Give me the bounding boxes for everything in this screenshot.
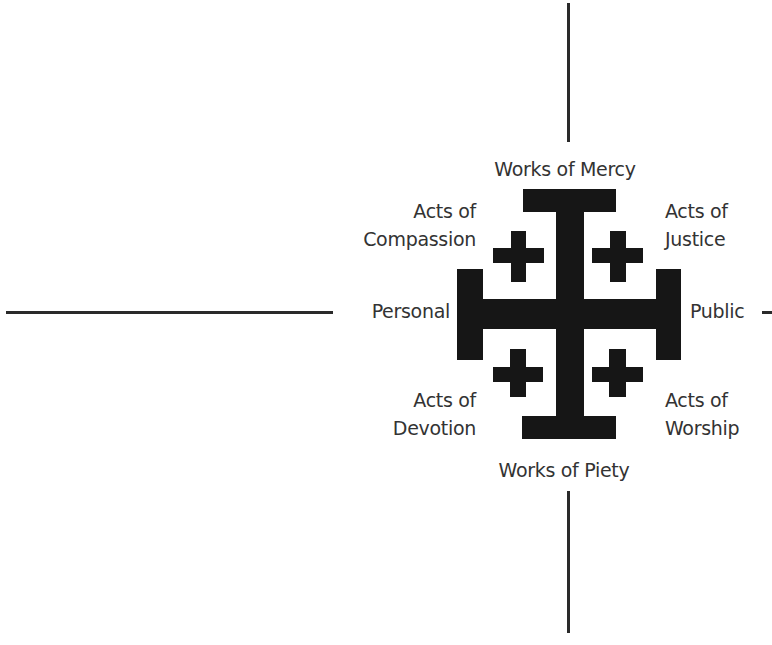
label-line: Justice — [665, 225, 765, 253]
axis-line-bottom — [567, 491, 570, 633]
label-acts-of-compassion: Acts of Compassion — [330, 197, 476, 253]
label-public: Public — [690, 297, 770, 325]
label-acts-of-devotion: Acts of Devotion — [330, 386, 476, 442]
label-works-of-mercy: Works of Mercy — [470, 155, 660, 183]
label-line: Acts of — [665, 197, 765, 225]
label-line: Acts of — [665, 386, 772, 414]
label-line: Compassion — [330, 225, 476, 253]
label-line: Devotion — [330, 414, 476, 442]
label-acts-of-justice: Acts of Justice — [665, 197, 765, 253]
label-acts-of-worship: Acts of Worship — [665, 386, 772, 442]
label-works-of-piety: Works of Piety — [469, 456, 659, 484]
axis-line-top — [567, 3, 570, 142]
label-line: Acts of — [330, 386, 476, 414]
axis-line-left — [6, 311, 333, 314]
label-line: Acts of — [330, 197, 476, 225]
label-line: Worship — [665, 414, 772, 442]
cross-horizontal-arm — [457, 299, 681, 329]
label-personal: Personal — [330, 297, 450, 325]
